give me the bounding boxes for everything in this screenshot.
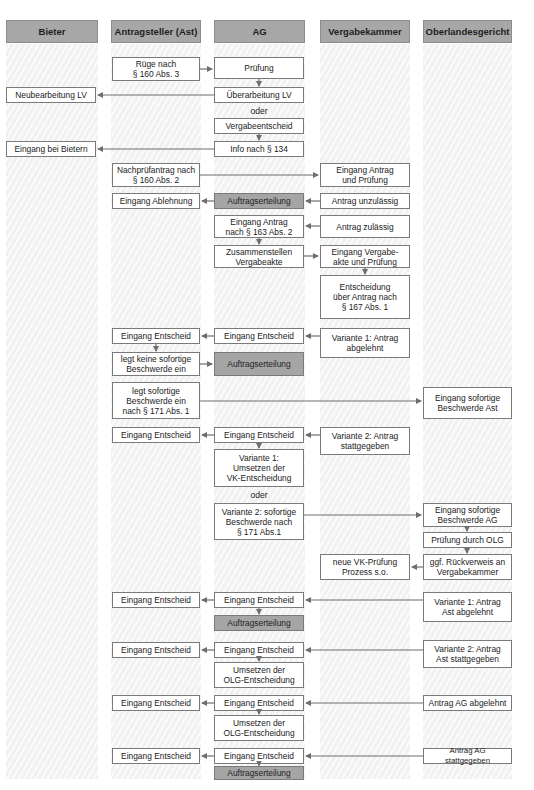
node-auftragserteilung-2: Auftragserteilung [214,352,304,376]
header-bieter: Bieter [6,20,98,43]
label-oder-2: oder [214,488,304,502]
node-legt-sofortige-beschwerde: legt sofortige Beschwerde ein nach § 171… [112,382,200,419]
node-info-134: Info nach § 134 [214,141,304,157]
node-ast-eingang-entscheid-2: Eingang Entscheid [112,427,200,443]
node-olg-antrag-ag-abgelehnt: Antrag AG abgelehnt [423,695,512,711]
node-olg-rueckverweis: ggf. Rückverweis an Vergabekammer [423,554,512,580]
node-ag-eingang-entscheid-2: Eingang Entscheid [214,427,304,443]
node-nachpruefantrag: Nachprüfantrag nach § 160 Abs. 2 [112,163,200,187]
node-entscheidung-167: Entscheidung über Antrag nach § 167 Abs.… [320,275,410,319]
node-vk-neue-pruefung: neue VK-Prüfung Prozess s.o. [320,554,410,580]
node-olg-antrag-ag-stattgegeben: Antrag AG stattgegeben [423,748,512,764]
node-ruege: Rüge nach § 160 Abs. 3 [112,57,200,81]
node-olg-variante-1: Variante 1: Antrag Ast abgelehnt [423,592,512,622]
node-ast-eingang-entscheid-6: Eingang Entscheid [112,748,200,764]
node-ag-eingang-entscheid-4: Eingang Entscheid [214,642,304,658]
node-eingang-antrag-163: Eingang Antrag nach § 163 Abs. 2 [214,215,304,238]
node-eingang-bei-bietern: Eingang bei Bietern [6,141,96,157]
label-oder-1: oder [214,104,304,118]
node-eingang-vergabeakte: Eingang Vergabe- akte und Prüfung [320,245,410,268]
node-ag-eingang-entscheid-3: Eingang Entscheid [214,592,304,608]
header-vergabekammer: Vergabekammer [320,20,410,43]
node-ag-variante-2-beschwerde: Variante 2: sofortige Beschwerde nach § … [214,503,304,540]
node-olg-eingang-beschwerde-ag: Eingang sofortige Beschwerde AG [423,503,512,527]
node-pruefung: Prüfung [214,57,304,79]
node-ag-eingang-entscheid-1: Eingang Entscheid [214,328,304,344]
node-vergabeentscheid: Vergabeentscheid [214,118,304,134]
node-antrag-unzulaessig: Antrag unzulässig [320,193,410,209]
node-olg-pruefung: Prüfung durch OLG [423,532,512,548]
node-ag-eingang-entscheid-6: Eingang Entscheid [214,748,304,764]
node-ag-variante-1-umsetzen: Variante 1: Umsetzen der VK-Entscheidung [214,449,304,487]
node-ast-eingang-entscheid-1: Eingang Entscheid [112,328,200,344]
node-umsetzen-olg-2: Umsetzen der OLG-Entscheidung [214,715,304,741]
node-legt-keine-beschwerde: legt keine sofortige Beschwerde ein [112,352,200,376]
node-antrag-zulaessig: Antrag zulässig [320,215,410,238]
node-ast-eingang-entscheid-3: Eingang Entscheid [112,592,200,608]
node-ast-eingang-entscheid-4: Eingang Entscheid [112,642,200,658]
header-antragsteller: Antragsteller (Ast) [111,20,201,43]
node-auftragserteilung-4: Auftragserteilung [214,766,304,780]
node-umsetzen-olg-1: Umsetzen der OLG-Entscheidung [214,662,304,688]
node-ag-eingang-entscheid-5: Eingang Entscheid [214,695,304,711]
node-olg-variante-2: Variante 2: Antrag Ast stattgegeben [423,640,512,668]
node-ueberarbeitung-lv: Überarbeitung LV [214,87,304,103]
node-eingang-ablehnung: Eingang Ablehnung [112,193,200,209]
node-vk-variante-2: Variante 2: Antrag stattgegeben [320,427,410,455]
node-eingang-antrag-pruefung: Eingang Antrag und Prüfung [320,163,410,187]
lane-vergabekammer [320,44,410,779]
header-ag: AG [214,20,305,43]
node-vk-variante-1: Variante 1: Antrag abgelehnt [320,328,410,358]
header-oberlandesgericht: Oberlandesgericht [423,20,512,43]
node-olg-eingang-beschwerde-ast: Eingang sofortige Beschwerde Ast [423,387,512,419]
node-auftragserteilung-1: Auftragserteilung [214,193,304,209]
node-zusammenstellen: Zusammenstellen Vergabeakte [214,245,304,268]
node-neubearbeitung-lv: Neubearbeitung LV [6,87,96,103]
node-ast-eingang-entscheid-5: Eingang Entscheid [112,695,200,711]
node-auftragserteilung-3: Auftragserteilung [214,615,304,631]
